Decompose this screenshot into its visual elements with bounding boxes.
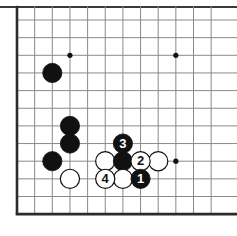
white-stone-cluster-left bbox=[96, 152, 115, 171]
move-stone-4 bbox=[96, 169, 115, 188]
go-board-diagram: 3241 bbox=[0, 0, 237, 236]
move-stone-3 bbox=[113, 134, 132, 153]
go-board-canvas bbox=[0, 0, 237, 236]
star-point-upper-right bbox=[173, 53, 178, 58]
white-stone-cluster-bottom-mid bbox=[113, 169, 132, 188]
black-stone-left-lower-mid bbox=[60, 134, 79, 153]
move-stone-2 bbox=[131, 152, 150, 171]
black-stone-upper-left bbox=[43, 63, 62, 82]
star-point-upper-left bbox=[67, 53, 72, 58]
white-stone-cluster-far-right bbox=[149, 152, 168, 171]
black-stone-left-upper-mid bbox=[60, 116, 79, 135]
black-stone-cluster-center bbox=[113, 152, 132, 171]
black-stone-left-edge bbox=[43, 152, 62, 171]
move-stone-1 bbox=[131, 169, 150, 188]
star-point-lower-right bbox=[173, 159, 178, 164]
white-stone-left-bottom bbox=[60, 169, 79, 188]
